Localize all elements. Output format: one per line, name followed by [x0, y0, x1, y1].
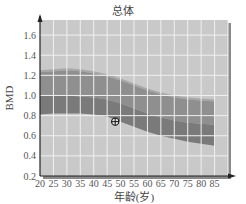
x-tick-label: 60 — [142, 178, 152, 189]
y-tick-label: 1.6 — [24, 30, 37, 41]
x-tick-label: 70 — [169, 178, 179, 189]
x-tick-label: 40 — [89, 178, 99, 189]
x-axis-arrow-icon — [228, 174, 236, 179]
y-axis-label: BMD — [3, 85, 15, 110]
x-tick-label: 75 — [183, 178, 193, 189]
y-tick-label: 0.8 — [24, 110, 37, 121]
x-tick-label: 35 — [75, 178, 85, 189]
x-tick-label: 45 — [102, 178, 112, 189]
x-tick-label: 20 — [35, 178, 45, 189]
y-tick-label: 1.4 — [24, 50, 37, 61]
x-axis-label: 年龄(岁) — [114, 190, 155, 204]
x-tick-label: 25 — [48, 178, 58, 189]
y-axis-arrow-icon — [38, 14, 43, 22]
x-tick-label: 85 — [210, 178, 220, 189]
x-tick-label: 30 — [62, 178, 72, 189]
y-tick-label: 0.4 — [24, 150, 37, 161]
y-tick-label: 1.2 — [24, 70, 37, 81]
x-tick-label: 80 — [196, 178, 206, 189]
x-tick-label: 55 — [129, 178, 139, 189]
bmd-chart: 0.20.40.60.81.01.21.41.62025303540455055… — [0, 0, 246, 204]
x-tick-label: 65 — [156, 178, 166, 189]
x-tick-label: 50 — [116, 178, 126, 189]
y-tick-label: 1.0 — [24, 90, 37, 101]
y-tick-label: 0.6 — [24, 130, 37, 141]
